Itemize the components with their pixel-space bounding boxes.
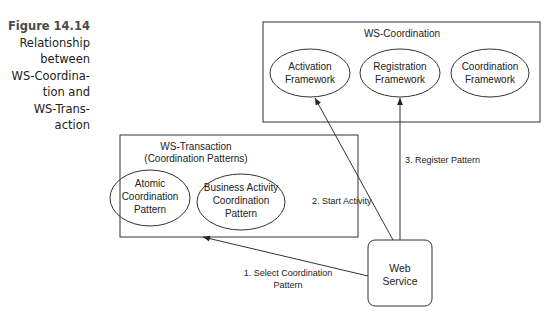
business-activity-coordination-pattern-ellipse: Business Activity Coordination Pattern: [197, 174, 285, 230]
svg-text:2. Start Activity: 2. Start Activity: [312, 196, 372, 206]
ws-transaction-subtitle: (Coordination Patterns): [144, 153, 247, 164]
svg-text:Coordination: Coordination: [213, 195, 270, 206]
svg-text:Framework: Framework: [285, 74, 336, 85]
coordination-framework-ellipse: Coordination Framework: [451, 49, 529, 97]
ws-transaction-box: WS-Transaction (Coordination Patterns) A…: [110, 135, 358, 237]
svg-text:Framework: Framework: [465, 74, 516, 85]
svg-text:Atomic: Atomic: [135, 178, 166, 189]
activation-framework-ellipse: Activation Framework: [270, 49, 350, 97]
arrow-register-pattern: 3. Register Pattern: [400, 98, 480, 240]
registration-framework-ellipse: Registration Framework: [360, 49, 440, 97]
diagram-canvas: WS-Coordination Activation Framework Reg…: [0, 0, 559, 323]
arrow-start-activity: 2. Start Activity: [312, 98, 393, 240]
svg-text:Registration: Registration: [373, 61, 426, 72]
svg-text:Pattern: Pattern: [134, 204, 166, 215]
svg-text:Web: Web: [389, 262, 411, 274]
svg-text:Framework: Framework: [375, 74, 426, 85]
svg-text:Business Activity: Business Activity: [204, 182, 278, 193]
svg-text:Coordination: Coordination: [462, 61, 519, 72]
svg-text:Coordination: Coordination: [122, 191, 179, 202]
svg-text:1. Select Coordination: 1. Select Coordination: [244, 268, 333, 278]
web-service-box: Web Service: [368, 240, 432, 306]
arrow-select-coordination-pattern: 1. Select Coordination Pattern: [203, 237, 368, 290]
svg-text:Activation: Activation: [288, 61, 331, 72]
ws-coordination-box: WS-Coordination Activation Framework Reg…: [263, 22, 540, 122]
ws-coordination-title: WS-Coordination: [364, 28, 440, 39]
svg-text:3. Register Pattern: 3. Register Pattern: [405, 155, 480, 165]
atomic-coordination-pattern-ellipse: Atomic Coordination Pattern: [110, 170, 190, 226]
svg-text:Pattern: Pattern: [273, 280, 302, 290]
ws-transaction-title: WS-Transaction: [160, 141, 231, 152]
svg-text:Pattern: Pattern: [225, 208, 257, 219]
svg-text:Service: Service: [382, 275, 417, 287]
